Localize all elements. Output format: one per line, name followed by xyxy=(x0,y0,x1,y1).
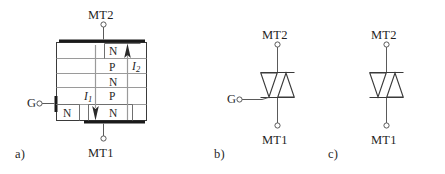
panel-a-mt2-label: MT2 xyxy=(88,9,114,21)
panel-a-mt1-label: MT1 xyxy=(88,147,114,159)
panel-b-caption: b) xyxy=(214,148,225,160)
mt2-contact-metallization xyxy=(59,40,145,43)
mt2-node-circle xyxy=(101,22,106,27)
triac-gate-node-circle xyxy=(237,97,242,102)
panel-b-mt2-label: MT2 xyxy=(262,29,288,41)
mt1-node-circle xyxy=(101,136,106,141)
layer-label-n1: N xyxy=(109,45,118,57)
panel-b-mt1-label: MT1 xyxy=(262,134,288,146)
diac-triangle-down xyxy=(370,73,386,97)
mt1-contact-metallization xyxy=(84,121,145,124)
panel-c-mt2-label: MT2 xyxy=(371,29,397,41)
diac-mt2-node-circle xyxy=(384,42,389,47)
layer-label-n2: N xyxy=(109,76,118,88)
panel-c-diac-symbol xyxy=(370,42,404,128)
layer-label-p2: P xyxy=(109,90,116,102)
panel-c-mt1-label: MT1 xyxy=(371,134,397,146)
triac-triangle-up xyxy=(278,73,294,97)
panel-b-triac-symbol xyxy=(237,42,295,128)
current-i2-subscript: 2 xyxy=(136,64,140,74)
panel-c-caption: c) xyxy=(328,148,338,160)
panel-a-gate-label: G xyxy=(27,97,36,109)
current-i1-label: I1 xyxy=(84,90,92,103)
gate-region-n-label: N xyxy=(63,107,72,119)
layer-label-n3: N xyxy=(109,107,118,119)
panel-a-caption: a) xyxy=(15,148,25,160)
triac-mt2-node-circle xyxy=(275,42,280,47)
current-i1-subscript: 1 xyxy=(88,94,92,104)
diac-mt1-node-circle xyxy=(384,123,389,128)
triac-triangle-down xyxy=(261,73,277,97)
current-i1-arrowhead xyxy=(92,106,99,121)
current-i2-label: I2 xyxy=(132,60,140,73)
triac-mt1-node-circle xyxy=(275,123,280,128)
diac-triangle-up xyxy=(387,73,403,97)
layer-label-p1: P xyxy=(109,61,116,73)
panel-a-cross-section xyxy=(37,22,147,141)
triac-diac-figure: MT2 MT1 G N P N P N N I1 I2 a) MT2 MT1 G… xyxy=(0,0,445,174)
gate-node-circle xyxy=(37,101,42,106)
panel-b-gate-label: G xyxy=(227,93,236,105)
